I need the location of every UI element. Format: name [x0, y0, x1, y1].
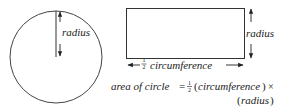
width-fraction-numerator: 1	[143, 57, 146, 63]
formula-equals: =	[179, 80, 185, 92]
rectangle-width-label: circumference	[150, 59, 212, 71]
circle-area-diagram: radius radius 1 2 circumference area of …	[0, 0, 283, 112]
circle-figure: radius	[10, 11, 102, 103]
formula-term-circumference: circumference	[198, 80, 260, 92]
formula-times: ×	[268, 81, 274, 92]
circle-radius-label: radius	[62, 26, 90, 38]
formula-fraction-numerator: 1	[188, 80, 191, 86]
rectangle-height-label: radius	[246, 27, 274, 39]
area-formula: area of circle = 1 2 ( circumference ) ×…	[111, 80, 274, 108]
formula-term-radius: radius	[241, 94, 269, 106]
width-fraction-denominator: 2	[143, 64, 146, 70]
formula-fraction-denominator: 2	[188, 87, 191, 93]
formula-line2-paren-right: )	[270, 94, 274, 107]
formula-paren-right: )	[262, 80, 266, 93]
formula-lhs: area of circle	[111, 80, 170, 92]
rectangle-outline	[127, 9, 245, 59]
rectangle-figure: radius 1 2 circumference	[127, 9, 275, 71]
